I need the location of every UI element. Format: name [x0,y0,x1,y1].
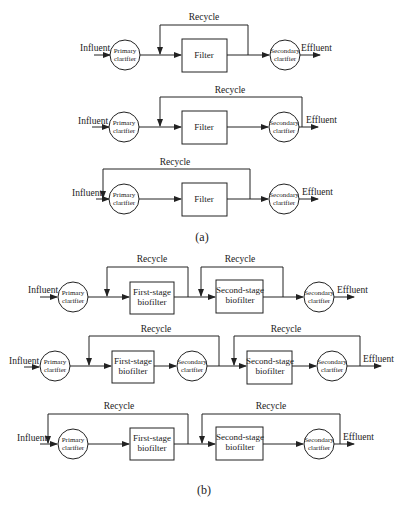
effluent-label: Effluent [337,285,368,295]
intermediate-clarifier-label-2: clarifier [181,366,204,374]
second-stage-label-1: Second-stage [246,356,294,366]
first-stage-label-2: biofilter [119,366,148,376]
influent-label: Influent [80,43,110,53]
secondary-clarifier-label-2: clarifier [308,297,331,305]
first-stage-label-1: First-stage [133,287,171,297]
recycle-label-2: Recycle [225,254,256,264]
secondary-clarifier-label-1: Secondary [270,47,300,55]
recycle-label-1: Recycle [137,254,168,264]
influent-label: Influent [78,116,108,126]
filter-label: Filter [194,50,214,60]
diagram-a-row-1: Influent Primary clarifier Filter Recycl… [80,12,332,72]
primary-clarifier-label-2: clarifier [113,199,136,207]
primary-clarifier-label-2: clarifier [114,55,137,63]
secondary-clarifier-label-1: Secondary [304,289,334,297]
recycle-label-1: Recycle [104,401,135,411]
first-stage-label-2: biofilter [138,443,167,453]
second-stage-label-2: biofilter [226,442,255,452]
primary-clarifier-label-2: clarifier [44,366,67,374]
recycle-label: Recycle [215,85,246,95]
diagram-a-row-3: Influent Primary clarifier Filter Recycl… [72,157,333,216]
primary-clarifier-label-1: Primary [62,289,85,297]
intermediate-clarifier-label-1: Secondary [177,358,207,366]
first-stage-label-1: First-stage [133,433,171,443]
effluent-label: Effluent [306,115,337,125]
second-stage-label-1: Second-stage [216,285,264,295]
recycle-label-2: Recycle [271,324,302,334]
first-stage-label-2: biofilter [138,297,167,307]
secondary-clarifier-label-1: Secondary [317,358,347,366]
primary-clarifier-label-1: Primary [114,47,137,55]
filter-label: Filter [194,122,214,132]
diagram-b-row-1: Influent Primary clarifier First-stage b… [28,254,368,314]
effluent-label: Effluent [363,354,394,364]
first-stage-label-1: First-stage [114,356,152,366]
secondary-clarifier-label-2: clarifier [308,444,331,452]
secondary-clarifier-label-2: clarifier [273,127,296,135]
second-stage-label-1: Second-stage [216,432,264,442]
filter-label: Filter [194,194,214,204]
secondary-clarifier-label-1: Secondary [269,191,299,199]
secondary-clarifier-label-1: Secondary [304,436,334,444]
influent-label: Influent [72,188,102,198]
diagram-a-row-2: Influent Primary clarifier Filter Recycl… [78,85,337,144]
primary-clarifier-label-2: clarifier [62,297,85,305]
second-stage-label-2: biofilter [256,366,285,376]
diagram-b-row-2: Influent Primary clarifier First-stage b… [9,324,394,384]
wastewater-flow-diagram: Influent Primary clarifier Filter Recycl… [0,0,404,508]
primary-clarifier-label-1: Primary [44,358,67,366]
second-stage-label-2: biofilter [226,295,255,305]
diagram-b-row-3: Influent Primary clarifier First-stage b… [17,401,374,460]
secondary-clarifier-label-2: clarifier [321,366,344,374]
recycle-label-1: Recycle [141,324,172,334]
recycle-label: Recycle [189,12,220,22]
effluent-label: Effluent [302,187,333,197]
caption-a: (a) [195,230,208,244]
influent-label: Influent [17,433,47,443]
effluent-label: Effluent [301,43,332,53]
primary-clarifier-label-1: Primary [62,436,85,444]
primary-clarifier-label-2: clarifier [113,127,136,135]
influent-label: Influent [28,285,58,295]
secondary-clarifier-label-2: clarifier [274,55,297,63]
influent-label: Influent [9,356,39,366]
primary-clarifier-label-1: Primary [113,119,136,127]
recycle-label-2: Recycle [256,401,287,411]
primary-clarifier-label-2: clarifier [62,444,85,452]
secondary-clarifier-label-1: Secondary [269,119,299,127]
primary-clarifier-label-1: Primary [113,191,136,199]
recycle-label: Recycle [160,157,191,167]
caption-b: (b) [197,483,211,497]
secondary-clarifier-label-2: clarifier [273,199,296,207]
effluent-label: Effluent [343,432,374,442]
